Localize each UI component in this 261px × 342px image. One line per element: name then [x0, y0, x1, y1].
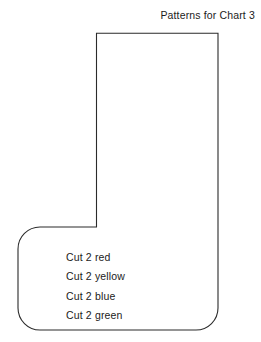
cut-label-yellow: Cut 2 yellow [66, 267, 186, 286]
cut-label-red: Cut 2 red [66, 248, 186, 267]
cut-label-blue: Cut 2 blue [66, 287, 186, 306]
pattern-sheet: Patterns for Chart 3 Cut 2 red Cut 2 yel… [0, 0, 261, 342]
cut-label-green: Cut 2 green [66, 306, 186, 325]
cut-label-list: Cut 2 red Cut 2 yellow Cut 2 blue Cut 2 … [66, 248, 186, 326]
